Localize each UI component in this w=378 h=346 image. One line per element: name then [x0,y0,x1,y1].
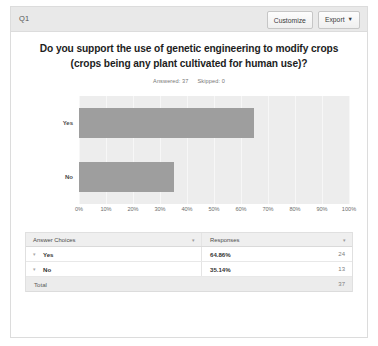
x-axis-tick-label: 0% [75,206,83,212]
x-axis-tick-label: 90% [316,206,327,212]
bar-group: No [79,162,349,192]
total-count: 37 [338,281,345,287]
table-total-row: Total 37 [26,277,352,292]
sort-caret-icon: ▾ [192,237,195,243]
response-percent: 35.14% [210,266,231,273]
answer-choice-label: Yes [43,251,54,258]
answer-choice-label: No [43,266,51,273]
answer-choices-header-label: Answer Choices [33,237,76,243]
cell-answer-choice: ▾ No [26,262,202,276]
expand-caret-icon[interactable]: ▾ [33,266,43,272]
x-axis-tick-label: 30% [154,206,165,212]
response-percent: 64.86% [210,251,231,258]
export-button-label: Export [325,16,345,23]
category-label: Yes [63,120,73,126]
x-axis-tick-label: 60% [235,206,246,212]
expand-caret-icon[interactable]: ▾ [33,251,43,257]
chart-plot-area: YesNo [79,96,349,204]
question-number-label: Q1 [19,14,29,23]
header-cell-answer-choices[interactable]: Answer Choices ▾ [26,233,202,246]
cell-answer-choice: ▾ Yes [26,247,202,261]
table-header-row: Answer Choices ▾ Responses ▾ [26,233,352,247]
chart-title: Do you support the use of genetic engine… [39,42,339,71]
x-axis-tick-label: 100% [342,206,356,212]
customize-button[interactable]: Customize [267,11,313,29]
total-label: Total [33,281,47,288]
bar[interactable] [79,108,254,138]
cell-responses: 64.86% 24 [202,247,352,261]
table-row[interactable]: ▾ No 35.14% 13 [26,262,352,277]
x-axis-tick-label: 20% [127,206,138,212]
x-axis-tick-label: 10% [100,206,111,212]
sort-caret-icon: ▾ [343,237,346,243]
response-count: 24 [338,251,345,257]
header-cell-responses[interactable]: Responses ▾ [202,233,352,246]
x-axis: 0%10%20%30%40%50%60%70%80%90%100% [79,206,349,218]
answered-count: Answered: 37 [153,78,188,84]
cell-responses: 35.14% 13 [202,262,352,276]
table-row[interactable]: ▾ Yes 64.86% 24 [26,247,352,262]
x-axis-tick-label: 50% [208,206,219,212]
gridline [349,96,350,204]
cell-total-label: Total [26,277,202,291]
category-label: No [65,174,73,180]
responses-header-label: Responses [210,237,239,243]
x-axis-tick-label: 40% [181,206,192,212]
cell-total-count: 37 [202,277,352,291]
question-card: Q1 Customize Export▼ Do you support the … [10,6,368,338]
header-actions: Customize Export▼ [267,11,360,29]
survey-results-page: Q1 Customize Export▼ Do you support the … [0,0,378,346]
x-axis-tick-label: 80% [289,206,300,212]
response-count: 13 [338,266,345,272]
bar-group: Yes [79,108,349,138]
x-axis-tick-label: 70% [262,206,273,212]
chart-title-block: Do you support the use of genetic engine… [11,32,367,84]
skipped-count: Skipped: 0 [197,78,224,84]
bar[interactable] [79,162,174,192]
results-table: Answer Choices ▾ Responses ▾ ▾ Yes 64.86… [25,232,353,292]
export-button[interactable]: Export▼ [318,11,360,29]
card-header: Q1 Customize Export▼ [11,7,367,32]
chevron-down-icon: ▼ [348,15,353,24]
bar-chart: YesNo 0%10%20%30%40%50%60%70%80%90%100% [23,92,355,220]
response-meta: Answered: 37Skipped: 0 [39,78,339,84]
